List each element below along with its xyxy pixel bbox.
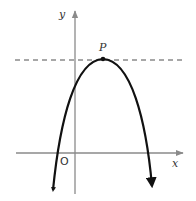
- parabola-diagram: y P O x: [0, 0, 196, 201]
- origin-label: O: [60, 155, 69, 168]
- x-axis-label: x: [172, 157, 179, 170]
- y-axis-label: y: [58, 8, 66, 21]
- vertex-label: P: [98, 41, 107, 54]
- vertex-point: [101, 57, 106, 62]
- parabola-curve: [53, 59, 152, 190]
